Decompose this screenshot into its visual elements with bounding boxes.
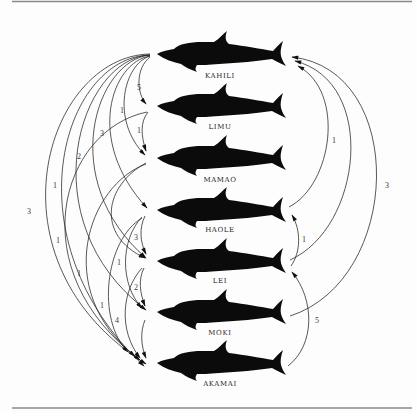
node-label: MAMAO [203, 176, 236, 184]
edge-moki-kahili [290, 57, 377, 316]
node-label: HAOLE [205, 226, 235, 234]
edge-akamai-lei [288, 272, 309, 366]
edge-moki-akamai [142, 320, 146, 358]
dolphin-silhouette-icon [157, 238, 286, 279]
edge-label: 1 [53, 181, 57, 190]
node-label: KAHILI [205, 72, 235, 80]
edge-limu-mamao [142, 112, 148, 151]
edge-label: 1 [120, 106, 124, 115]
edge-label: 3 [385, 181, 389, 190]
dolphin-silhouette-icon [157, 340, 286, 381]
dolphin-silhouette-icon [157, 31, 286, 72]
edge-mamao-lei [111, 163, 146, 258]
edge-kahili-akamai-2 [62, 55, 150, 366]
edge-label: 3 [27, 207, 31, 216]
edge-label: 1 [137, 126, 141, 135]
node-label: LEI [213, 277, 227, 285]
edge-kahili-mamao [124, 56, 150, 155]
edge-haole-kahili [289, 66, 328, 207]
dolphin-silhouette-icon [157, 135, 286, 176]
edge-haole-lei [141, 216, 146, 254]
edge-label: 1 [100, 301, 104, 310]
edges-right: 1 3 1 5 [288, 57, 389, 366]
edge-lei-moki [140, 268, 145, 306]
edge-label: 5 [137, 83, 141, 92]
dolphin-silhouette-icon [157, 187, 286, 228]
dolphin-association-diagram: KAHILI LIMU MAMAO HAOLE LEI MOKI AKAMAI … [0, 0, 417, 412]
edge-label: 4 [115, 316, 119, 325]
node-limu: LIMU [157, 83, 286, 131]
node-label: MOKI [208, 329, 231, 337]
edge-label: 2 [77, 152, 81, 161]
edge-label: 2 [134, 283, 138, 292]
edge-label: 1 [302, 235, 306, 244]
node-haole: HAOLE [157, 187, 286, 234]
edge-label: 3 [134, 233, 138, 242]
edge-label: 1 [117, 258, 121, 267]
edge-lei-haole [291, 215, 299, 266]
dolphin-silhouette-icon [157, 83, 286, 124]
node-kahili: KAHILI [157, 31, 286, 80]
dolphin-silhouette-icon [157, 289, 286, 330]
edges-left: 5 1 1 3 2 1 3 1 1 3 1 1 2 4 [27, 54, 150, 366]
node-lei: LEI [157, 238, 286, 285]
edge-kahili-limu [139, 57, 150, 104]
node-label: AKAMAI [202, 380, 237, 388]
edge-label: 1 [332, 136, 336, 145]
node-moki: MOKI [157, 289, 286, 337]
edge-kahili-akamai [46, 54, 150, 364]
edge-label: 5 [315, 316, 319, 325]
edge-label: 1 [56, 236, 60, 245]
node-akamai: AKAMAI [157, 340, 286, 388]
node-mamao: MAMAO [157, 135, 286, 184]
node-label: LIMU [209, 123, 232, 131]
